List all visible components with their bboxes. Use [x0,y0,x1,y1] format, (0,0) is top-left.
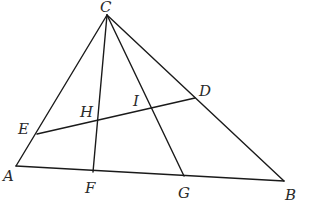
label-D: D [198,82,211,100]
label-B: B [284,186,296,204]
segment-CA [16,15,107,166]
label-H: H [79,103,94,121]
label-G: G [178,184,190,202]
segment-ED [37,98,195,134]
label-I: I [132,92,140,110]
segment-AB [16,166,284,181]
label-C: C [100,0,112,16]
label-A: A [1,167,14,185]
segment-CF [93,15,107,172]
label-F: F [84,179,96,197]
triangle-diagram: A B C D E F G H I [0,0,314,204]
label-E: E [17,120,29,138]
segment-CG [107,15,184,176]
